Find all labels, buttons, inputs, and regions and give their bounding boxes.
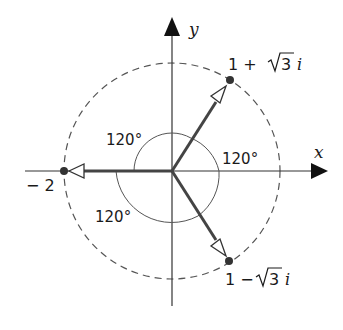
label-lower-pre: 1 − (225, 270, 254, 289)
complex-plane-diagram: x y 1 + 3 i − 2 1 − 3 i 120° 120° 120° (0, 0, 343, 330)
label-lower-point: 1 − 3 i (225, 268, 290, 289)
label-upper-point: 1 + 3 i (228, 53, 302, 74)
label-lower-root: 3 (269, 270, 279, 289)
label-upper-root: 3 (281, 55, 291, 74)
x-axis-label: x (314, 142, 324, 162)
arrowhead-lower-icon (211, 239, 226, 256)
angle-label-right: 120° (222, 150, 258, 168)
arrowhead-upper-icon (211, 86, 226, 103)
vector-lower (172, 171, 216, 240)
point-lower (225, 257, 233, 265)
label-lower-post: i (285, 270, 290, 289)
angle-label-lower: 120° (95, 208, 131, 226)
angle-label-upper: 120° (106, 131, 142, 149)
point-upper (226, 76, 234, 84)
y-axis-label: y (188, 19, 199, 39)
y-axis-arrow-icon (164, 17, 180, 36)
label-left-point: − 2 (26, 176, 55, 195)
arrowhead-left-icon (69, 164, 84, 178)
label-upper-pre: 1 + (228, 55, 257, 74)
svg-text:1 −: 1 − (225, 270, 254, 289)
x-axis-arrow-icon (311, 163, 328, 179)
svg-text:1 +: 1 + (228, 55, 257, 74)
angle-arc-right (191, 138, 219, 216)
label-upper-post: i (297, 55, 302, 74)
point-left (60, 167, 68, 175)
vector-upper (172, 102, 216, 171)
